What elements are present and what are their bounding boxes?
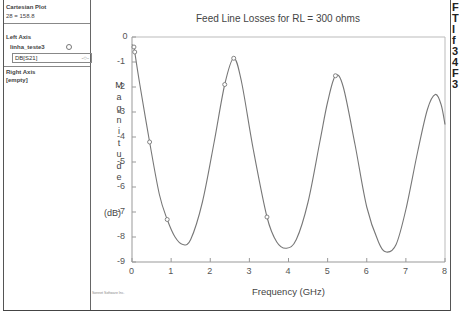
- x-tick-label: 6: [364, 266, 369, 276]
- data-point-marker[interactable]: [265, 215, 269, 219]
- y-axis-unit: (dB): [104, 208, 121, 218]
- x-tick-label: 4: [286, 266, 291, 276]
- y-tick-label: -1: [117, 56, 125, 66]
- x-tick-label: 3: [246, 266, 251, 276]
- data-point-marker[interactable]: [133, 50, 137, 54]
- y-tick-label: -9: [117, 256, 125, 266]
- credit-text: Sonnet Software Inc.: [92, 291, 125, 295]
- x-tick-label: 1: [168, 266, 173, 276]
- x-axis-label: Frequency (GHz): [252, 286, 325, 297]
- x-tick-label: 8: [442, 266, 447, 276]
- x-tick-label: 7: [403, 266, 408, 276]
- y-tick-label: 0: [123, 31, 128, 41]
- x-tick-label: 2: [207, 266, 212, 276]
- data-point-marker[interactable]: [333, 74, 337, 78]
- data-point-marker[interactable]: [132, 45, 136, 49]
- data-point-marker[interactable]: [165, 218, 169, 222]
- data-point-marker[interactable]: [148, 140, 152, 144]
- x-tick-label: 0: [129, 266, 134, 276]
- y-tick-label: -8: [117, 231, 125, 241]
- data-point-marker[interactable]: [232, 56, 236, 60]
- data-point-marker[interactable]: [223, 83, 227, 87]
- y-axis-label: Magnitude: [113, 80, 125, 184]
- data-series-line[interactable]: [132, 45, 445, 253]
- x-tick-label: 5: [325, 266, 330, 276]
